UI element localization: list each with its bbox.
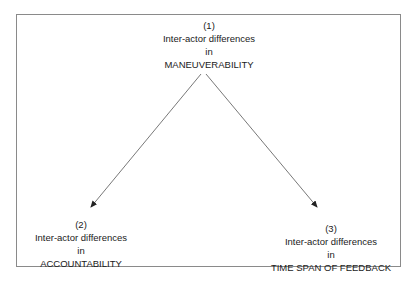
node-accountability: (2) Inter-actor differences in ACCOUNTAB…	[26, 218, 136, 270]
arrow-1-to-3	[206, 74, 317, 207]
arrow-1-to-2	[91, 74, 201, 207]
node-time-span-of-feedback: (3) Inter-actor differences in TIME SPAN…	[262, 222, 400, 274]
node-maneuverability: (1) Inter-actor differences in MANEUVERA…	[109, 19, 309, 71]
node-number: (2)	[26, 218, 136, 231]
node-connector: in	[109, 45, 309, 58]
node-number: (1)	[109, 19, 309, 32]
node-connector: in	[26, 244, 136, 257]
node-topic: ACCOUNTABILITY	[26, 257, 136, 270]
node-number: (3)	[262, 222, 400, 235]
node-topic: MANEUVERABILITY	[109, 58, 309, 71]
node-label: Inter-actor differences	[109, 32, 309, 45]
node-label: Inter-actor differences	[262, 235, 400, 248]
node-topic: TIME SPAN OF FEEDBACK	[262, 261, 400, 274]
node-connector: in	[262, 248, 400, 261]
node-label: Inter-actor differences	[26, 231, 136, 244]
